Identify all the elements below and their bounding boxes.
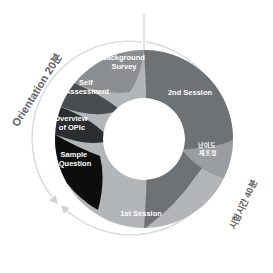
donut-diagram-svg: Background Survey Self Assessment Overvi… [0, 0, 273, 273]
label-overview-of-opic: Overview of OPIc [54, 114, 89, 132]
donut-diagram-stage: Background Survey Self Assessment Overvi… [0, 0, 273, 273]
label-sample-question: Sample Question [59, 150, 92, 168]
label-first-session: 1st Session [120, 209, 162, 218]
outer-label-test-time: 시험시간 40분 [227, 178, 259, 230]
donut-ring [54, 49, 234, 229]
label-second-session: 2nd Session [168, 88, 213, 97]
